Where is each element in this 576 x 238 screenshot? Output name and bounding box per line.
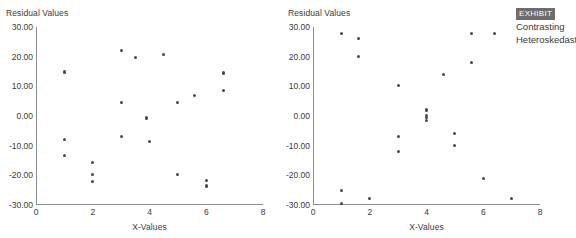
x-tick-label: 2 (367, 208, 372, 217)
y-tick-label: 20.00 (289, 52, 310, 61)
y-axis-title-right: Residual Values (288, 8, 350, 18)
exhibit-caption-block: EXHIBIT Contrasting Heteroskedasticity (516, 2, 576, 46)
data-point (120, 135, 123, 138)
data-point (205, 179, 208, 182)
data-point (145, 116, 148, 119)
y-tick-label: -20.00 (286, 171, 310, 180)
data-point (222, 71, 225, 74)
data-point (120, 101, 123, 104)
scatter-chart-left: Residual Values 30.0020.0010.000.00-10.0… (0, 0, 275, 238)
data-point (357, 37, 360, 40)
y-tick-label: -10.00 (9, 141, 33, 150)
data-point (397, 84, 400, 87)
exhibit-caption-line-2: Heteroskedasticity (516, 34, 576, 46)
x-tick-label: 4 (424, 208, 429, 217)
exhibit-caption-line-1: Contrasting (516, 21, 576, 33)
x-tick-label: 2 (90, 208, 95, 217)
y-tick-label: 0.00 (16, 112, 33, 121)
data-point (222, 89, 225, 92)
y-axis-line-right (313, 27, 314, 205)
x-axis-title-left: X-Values (36, 222, 263, 232)
data-point (340, 32, 343, 35)
data-point (397, 135, 400, 138)
y-tick-label: -30.00 (286, 201, 310, 210)
x-axis-title-right: X-Values (313, 222, 540, 232)
y-tick-label: 30.00 (12, 23, 33, 32)
data-point (425, 119, 428, 122)
x-tick-label: 0 (311, 208, 316, 217)
data-point (193, 94, 196, 97)
data-point (162, 53, 165, 56)
data-point (482, 177, 485, 180)
data-point (205, 184, 208, 187)
data-point (63, 70, 66, 73)
x-tick-label: 6 (481, 208, 486, 217)
data-point (120, 49, 123, 52)
plot-area-right: 30.0020.0010.000.00-10.00-20.00-30.00024… (313, 27, 540, 205)
data-point (453, 132, 456, 135)
data-point (470, 61, 473, 64)
y-tick-label: 0.00 (293, 112, 310, 121)
y-tick-label: 20.00 (12, 52, 33, 61)
data-point (397, 150, 400, 153)
data-point (63, 138, 66, 141)
x-axis-line-left (36, 204, 263, 205)
exhibit-badge: EXHIBIT (516, 8, 555, 20)
x-tick-label: 8 (538, 208, 543, 217)
data-point (357, 55, 360, 58)
data-point (368, 197, 371, 200)
data-point (91, 173, 94, 176)
y-tick-label: -30.00 (9, 201, 33, 210)
x-tick-label: 8 (261, 208, 266, 217)
data-point (493, 32, 496, 35)
data-point (510, 197, 513, 200)
y-axis-line-left (36, 27, 37, 205)
data-point (453, 144, 456, 147)
data-point (91, 180, 94, 183)
data-point (442, 73, 445, 76)
data-point (148, 140, 151, 143)
y-tick-label: -10.00 (286, 141, 310, 150)
scatter-chart-right: Residual Values 30.0020.0010.000.00-10.0… (275, 0, 551, 238)
y-tick-label: 10.00 (289, 82, 310, 91)
data-point (63, 154, 66, 157)
y-axis-title-left: Residual Values (6, 8, 68, 18)
y-tick-label: 10.00 (12, 82, 33, 91)
data-point (176, 173, 179, 176)
data-point (176, 101, 179, 104)
data-point (425, 108, 428, 111)
x-tick-label: 4 (147, 208, 152, 217)
y-tick-label: -20.00 (9, 171, 33, 180)
x-tick-label: 6 (204, 208, 209, 217)
plot-area-left: 30.0020.0010.000.00-10.00-20.00-30.00024… (36, 27, 263, 205)
x-axis-line-right (313, 204, 540, 205)
data-point (340, 189, 343, 192)
data-point (134, 56, 137, 59)
x-tick-label: 0 (34, 208, 39, 217)
data-point (470, 32, 473, 35)
y-tick-label: 30.00 (289, 23, 310, 32)
data-point (91, 161, 94, 164)
